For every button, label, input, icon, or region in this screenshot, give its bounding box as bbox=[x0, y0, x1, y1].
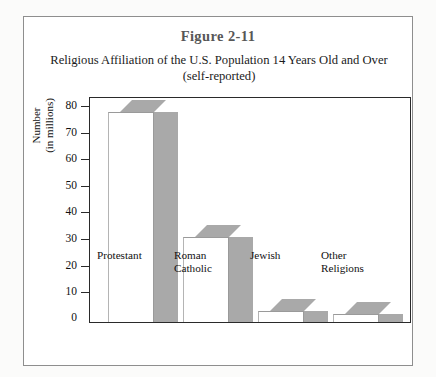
bar-jewish-top bbox=[270, 299, 316, 311]
bar-protestant[interactable] bbox=[108, 112, 154, 322]
bar-jewish[interactable] bbox=[258, 311, 304, 322]
plot-area: 80 70 60 50 40 30 20 10 0 bbox=[89, 97, 411, 323]
figure-title: Religious Affiliation of the U.S. Popula… bbox=[36, 53, 402, 84]
figure-number: Figure 2-11 bbox=[24, 28, 412, 45]
bar-other-religions-top bbox=[345, 302, 391, 314]
y-tick-label-50: 50 bbox=[47, 179, 77, 191]
y-tick-label-10: 10 bbox=[47, 285, 77, 297]
y-tick-label-20: 20 bbox=[47, 259, 77, 271]
y-tick-50: 50 bbox=[81, 186, 90, 187]
y-tick-70: 70 bbox=[81, 133, 90, 134]
y-tick-label-80: 80 bbox=[47, 99, 77, 111]
y-tick-80: 80 bbox=[81, 106, 90, 107]
y-tick-label-70: 70 bbox=[47, 126, 77, 138]
figure-frame: Figure 2-11 Religious Affiliation of the… bbox=[23, 16, 413, 366]
y-tick-label-40: 40 bbox=[47, 205, 77, 217]
x-label-other-religions: Other Religions bbox=[321, 249, 401, 275]
bar-roman-catholic-top bbox=[195, 225, 241, 237]
y-tick-20: 20 bbox=[81, 266, 90, 267]
x-label-jewish: Jewish bbox=[250, 249, 330, 262]
y-tick-label-30: 30 bbox=[47, 232, 77, 244]
x-label-roman-catholic: Roman Catholic bbox=[174, 249, 254, 275]
bar-jewish-side bbox=[304, 311, 328, 322]
y-tick-40: 40 bbox=[81, 212, 90, 213]
y-tick-label-60: 60 bbox=[47, 152, 77, 164]
bar-jewish-front bbox=[258, 311, 304, 322]
y-tick-label-0: 0 bbox=[47, 311, 77, 323]
y-tick-30: 30 bbox=[81, 239, 90, 240]
x-label-protestant: Protestant bbox=[97, 249, 177, 262]
bar-other-religions-side bbox=[379, 314, 403, 322]
bar-other-religions[interactable] bbox=[333, 314, 379, 322]
y-tick-60: 60 bbox=[81, 159, 90, 160]
bar-protestant-front bbox=[108, 112, 154, 322]
bar-protestant-top bbox=[120, 100, 166, 112]
bar-protestant-side bbox=[154, 112, 178, 322]
bar-other-religions-front bbox=[333, 314, 379, 322]
y-tick-10: 10 bbox=[81, 292, 90, 293]
